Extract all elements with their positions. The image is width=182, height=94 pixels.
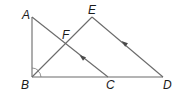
label-b: B — [21, 78, 29, 92]
angle-arc-inner-icon — [32, 68, 38, 71]
segment-be — [32, 17, 92, 77]
label-a: A — [21, 8, 30, 22]
segment-ed — [92, 17, 163, 77]
geometry-diagram: A B C D E F — [0, 0, 182, 94]
parallel-arrow-ac-icon — [80, 55, 87, 61]
label-d: D — [163, 78, 172, 92]
segment-ac — [32, 17, 108, 77]
label-e: E — [88, 3, 97, 17]
label-c: C — [106, 78, 115, 92]
label-f: F — [62, 28, 70, 42]
